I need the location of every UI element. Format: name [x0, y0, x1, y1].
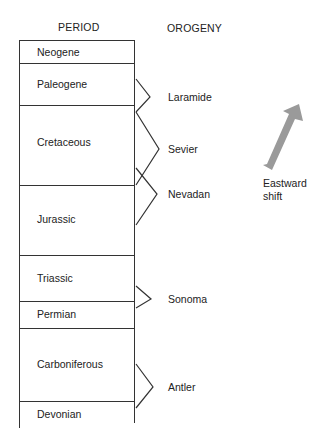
orogeny-sevier: Sevier [168, 143, 198, 155]
period-header: PERIOD [58, 21, 99, 33]
bracket-sonoma [136, 286, 151, 308]
eastward-shift-arrow-icon [263, 104, 303, 170]
orogeny-header: OROGENY [167, 22, 222, 34]
period-neogene: Neogene [37, 46, 80, 58]
eastward-shift-line1: Eastward [263, 177, 307, 190]
period-cretaceous: Cretaceous [37, 136, 91, 148]
orogeny-laramide: Laramide [168, 91, 212, 103]
period-triassic: Triassic [37, 272, 73, 284]
period-paleogene: Paleogene [37, 78, 87, 90]
period-carboniferous: Carboniferous [37, 358, 103, 370]
orogeny-nevadan: Nevadan [168, 188, 210, 200]
eastward-shift-line2: shift [263, 190, 307, 203]
bracket-antler [136, 364, 153, 408]
bracket-sevier [136, 112, 159, 185]
period-permian: Permian [37, 308, 76, 320]
period-devonian: Devonian [37, 408, 81, 420]
orogeny-antler: Antler [168, 381, 195, 393]
bracket-nevadan [136, 168, 157, 225]
eastward-shift-label: Eastward shift [263, 177, 307, 203]
orogeny-sonoma: Sonoma [168, 293, 207, 305]
bracket-laramide [136, 79, 150, 112]
period-jurassic: Jurassic [37, 213, 76, 225]
